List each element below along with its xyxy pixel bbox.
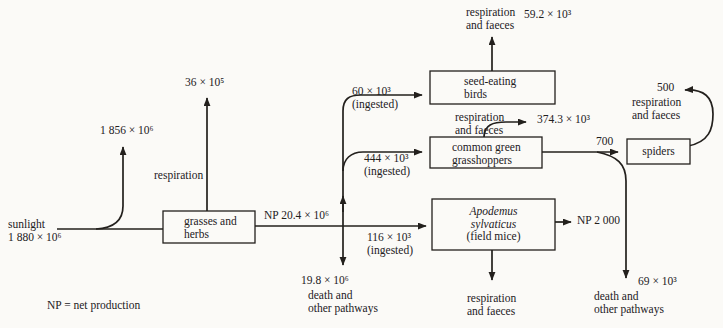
- legend-np-note: NP = net production: [47, 299, 140, 312]
- mice-respiration-label: respiration and faeces: [467, 292, 516, 317]
- grasses-respiration-word: respiration: [154, 169, 203, 182]
- grasses-np-label: NP 20.4 × 10⁶: [264, 209, 329, 222]
- sunlight-label: sunlight 1 880 × 10⁶: [8, 218, 62, 243]
- birds-respiration-value: 59.2 × 10³: [524, 8, 571, 21]
- grasses-death-value: 19.8 × 10⁶: [301, 274, 349, 287]
- energy-flow-diagram: grasses and herbs seed-eating birds comm…: [0, 0, 723, 328]
- grasshoppers-death-label: death and other pathways: [594, 290, 664, 315]
- mice-np-label: NP 2 000: [577, 214, 620, 227]
- diagram-lines: [0, 0, 723, 328]
- grasshoppers-respiration-label: respiration and faeces: [455, 111, 504, 136]
- spiders-respiration-label: respiration and faeces: [632, 96, 681, 121]
- grasses-respiration-value: 36 × 10⁵: [185, 76, 224, 89]
- not-fixed-arrow: [96, 147, 123, 229]
- mice-box-label: Apodemus sylvaticus (field mice): [432, 205, 555, 243]
- spiders-respiration-value: 500: [657, 81, 674, 94]
- spiders-respiration-arrow: [685, 90, 713, 146]
- grasshoppers-death-value: 69 × 10³: [638, 275, 677, 288]
- grasses-box-label: grasses and herbs: [184, 215, 237, 240]
- not-fixed-value: 1 856 × 10⁶: [100, 124, 154, 137]
- birds-box-label: seed-eating birds: [464, 75, 516, 100]
- to-spiders-value: 700: [596, 135, 613, 148]
- mice-ingested-label: 116 × 10³ (ingested): [367, 231, 413, 256]
- grasshoppers-box-label: common green grasshoppers: [452, 141, 521, 166]
- birds-respiration-label: respiration and faeces: [466, 6, 515, 31]
- spiders-box-label: spiders: [627, 145, 690, 158]
- grasses-death-label: death and other pathways: [308, 289, 378, 314]
- grasshoppers-respiration-value: 374.3 × 10³: [537, 113, 590, 126]
- grasshoppers-ingested-label: 444 × 10³ (ingested): [364, 152, 410, 177]
- birds-ingested-label: 60 × 10³ (ingested): [352, 85, 398, 110]
